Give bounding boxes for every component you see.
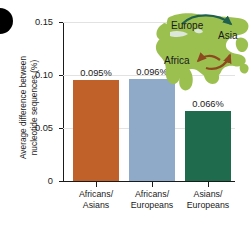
y-tick-label-1: 0.10 bbox=[35, 70, 53, 80]
world-map-inset: Europe Asia Africa bbox=[146, 8, 251, 92]
map-label-africa: Africa bbox=[164, 55, 190, 66]
y-tick-mark-0: 0.15 bbox=[59, 22, 63, 23]
x-tick-mark-0 bbox=[96, 182, 97, 187]
bar-value-label-0: 0.095% bbox=[80, 68, 112, 78]
panel-label-badge bbox=[0, 8, 13, 34]
map-label-asia: Asia bbox=[218, 30, 237, 41]
y-tick-label-3: 0 bbox=[48, 176, 53, 186]
x-tick-mark-2 bbox=[208, 182, 209, 187]
map-label-europe: Europe bbox=[171, 20, 203, 31]
figure-panel: Average difference between nucleotide se… bbox=[0, 0, 251, 237]
y-tick-label-2: 0.05 bbox=[35, 123, 53, 133]
bar-africans-asians[interactable]: 0.095% bbox=[73, 80, 119, 181]
y-tick-mark-2: 0.05 bbox=[59, 128, 63, 129]
x-category-label-2: Asians/ Europeans bbox=[173, 189, 243, 211]
bar-value-label-2: 0.066% bbox=[192, 99, 224, 109]
y-tick-mark-3: 0 bbox=[59, 181, 63, 182]
bar-africans-europeans[interactable]: 0.096% bbox=[129, 79, 175, 181]
x-tick-mark-1 bbox=[152, 182, 153, 187]
y-axis-line bbox=[63, 22, 64, 182]
y-tick-mark-1: 0.10 bbox=[59, 75, 63, 76]
y-tick-label-0: 0.15 bbox=[35, 17, 53, 27]
bar-asians-europeans[interactable]: 0.066% bbox=[185, 111, 231, 181]
y-axis-title: Average difference between nucleotide se… bbox=[18, 23, 39, 193]
